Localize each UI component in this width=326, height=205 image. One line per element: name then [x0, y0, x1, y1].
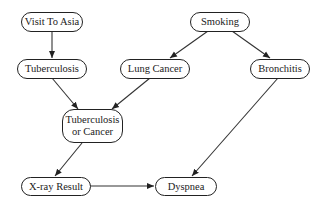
edge-smoking-bronchitis — [232, 31, 270, 58]
node-label-line1: Tuberculosis — [66, 114, 120, 126]
node-label: X-ray Result — [29, 181, 83, 193]
node-label: Tuberculosis — [25, 63, 79, 75]
node-label: Bronchitis — [258, 63, 302, 75]
node-visit-to-asia: Visit To Asia — [21, 12, 83, 32]
edge-lung-cancer-tb-or-cancer — [112, 78, 150, 109]
node-bronchitis: Bronchitis — [250, 59, 310, 79]
node-dyspnea: Dyspnea — [155, 177, 217, 196]
node-xray-result: X-ray Result — [21, 177, 91, 196]
edge-smoking-lung-cancer — [170, 31, 208, 58]
node-lung-cancer: Lung Cancer — [120, 59, 190, 79]
node-smoking: Smoking — [190, 12, 250, 32]
node-label: Dyspnea — [168, 181, 205, 193]
node-label: Lung Cancer — [128, 63, 183, 75]
edge-bronchitis-dyspnea — [192, 78, 278, 176]
node-tuberculosis: Tuberculosis — [17, 59, 87, 79]
edge-tb-or-cancer-xray — [55, 143, 82, 176]
node-label-line2: or Cancer — [72, 126, 113, 138]
node-label: Smoking — [201, 16, 239, 28]
edge-tuberculosis-tb-or-cancer — [52, 78, 78, 109]
node-label: Visit To Asia — [25, 16, 79, 28]
node-tb-or-cancer: Tuberculosis or Cancer — [62, 109, 123, 143]
